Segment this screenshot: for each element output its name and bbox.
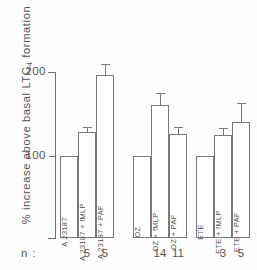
y-tick-mark <box>49 156 56 157</box>
error-bar-stem <box>178 127 179 134</box>
y-tick-label-200: 200 <box>16 65 46 77</box>
bar: ETE + fMLP <box>214 135 232 238</box>
error-bar-cap <box>156 93 165 94</box>
error-bar-cap <box>174 127 183 128</box>
y-tick-mark <box>49 72 56 73</box>
error-bar-cap <box>219 128 228 129</box>
bar-label: OZ + PAF <box>169 214 178 249</box>
bar: OZ <box>133 156 151 238</box>
error-bar-stem <box>223 128 224 135</box>
error-bar-stem <box>241 103 242 121</box>
bar-label: ETE + PAF <box>232 212 241 252</box>
n-value: 5 <box>231 247 251 259</box>
plot-area: A 23187A 23187 + fMLPA 23187 + PAFOZOZ +… <box>0 0 257 270</box>
bar: ETE <box>196 156 214 238</box>
chart-figure: % increase above basal LTC4 formation A … <box>0 0 257 270</box>
error-bar-stem <box>105 64 106 76</box>
n-value: 5 <box>95 247 115 259</box>
n-row-label: n : <box>21 247 37 259</box>
bar: OZ + fMLP <box>151 105 169 238</box>
error-bar-cap <box>237 103 246 104</box>
n-value: 3 <box>213 247 233 259</box>
n-value: 5 <box>77 247 97 259</box>
bar: A 23187 <box>60 156 78 238</box>
error-bar-cap <box>83 127 92 128</box>
y-tick-label-100: 100 <box>16 149 46 161</box>
bar-label: OZ + fMLP <box>151 212 160 251</box>
bar-label: ETE <box>196 224 205 239</box>
bar: A 23187 + fMLP <box>78 132 96 238</box>
bar: ETE + PAF <box>232 122 250 238</box>
error-bar-cap <box>101 64 110 65</box>
n-value: 11 <box>168 247 188 259</box>
bar-label: A 23187 <box>60 217 69 247</box>
n-value: 14 <box>150 247 170 259</box>
bar-label: OZ <box>133 227 142 238</box>
bar: A 23187 + PAF <box>96 75 114 238</box>
error-bar-stem <box>160 93 161 105</box>
bar: OZ + PAF <box>169 134 187 238</box>
